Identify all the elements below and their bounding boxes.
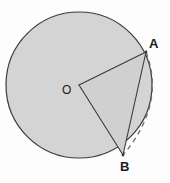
label-point-a: A [149, 37, 159, 50]
point-b-marker [122, 154, 125, 157]
label-center-o: O [62, 84, 72, 96]
geometry-canvas [0, 0, 170, 183]
label-point-b: B [120, 160, 130, 173]
geometry-figure: A B O [0, 0, 170, 183]
point-a-marker [145, 51, 148, 54]
